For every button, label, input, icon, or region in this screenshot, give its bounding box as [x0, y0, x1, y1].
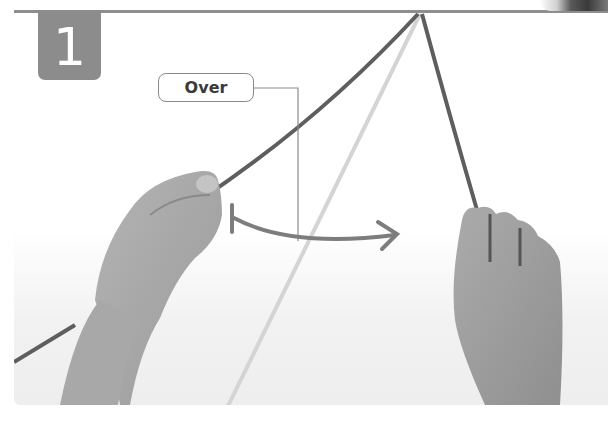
step-badge: 1 [38, 10, 101, 80]
callout-label: Over [185, 78, 228, 97]
adjacent-photo-corner [540, 0, 608, 11]
step-number: 1 [53, 21, 86, 73]
over-callout: Over [158, 73, 254, 102]
instruction-figure: 1 Over [0, 0, 608, 429]
callout-leader [254, 88, 298, 241]
dark-rope-left [200, 14, 418, 200]
dark-rope-tail [14, 325, 75, 362]
dark-rope-right [422, 14, 477, 210]
top-rule [14, 10, 608, 13]
light-rope [228, 14, 420, 406]
right-hand [454, 207, 563, 405]
